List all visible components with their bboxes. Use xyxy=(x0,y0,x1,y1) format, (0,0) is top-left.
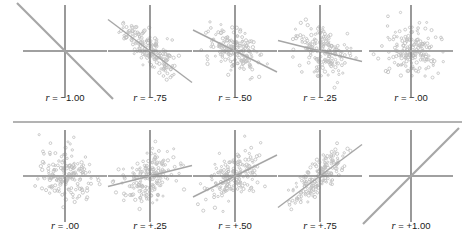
scatter-panel-8 xyxy=(278,130,362,222)
scatter-points xyxy=(34,134,101,209)
figure-canvas: r = −1.00r = −.75r = −.50r = −.25r = −.0… xyxy=(0,0,475,245)
panel-label: r = −.25 xyxy=(303,92,337,103)
label-equals: = xyxy=(55,220,66,231)
panel-label: r = −.75 xyxy=(133,92,167,103)
panel-label: r = +.50 xyxy=(218,220,252,231)
panel-label: r = .00 xyxy=(51,220,79,231)
r-value: +.50 xyxy=(233,220,252,231)
label-equals: = xyxy=(222,220,233,231)
label-equals: = xyxy=(307,220,318,231)
scatter-panel-5 xyxy=(23,130,107,222)
scatter-panel-6 xyxy=(108,130,192,222)
panel-label: r = −.00 xyxy=(394,92,428,103)
label-equals: = xyxy=(222,92,233,103)
panel-label: r = −1.00 xyxy=(46,92,85,103)
scatter-panel-7 xyxy=(193,130,277,222)
scatter-panel-0 xyxy=(17,3,113,99)
r-value: −1.00 xyxy=(60,92,84,103)
panel-label: r = +.25 xyxy=(133,220,167,231)
scatter-points xyxy=(291,18,357,89)
r-value: −.75 xyxy=(148,92,167,103)
r-value: −.50 xyxy=(233,92,252,103)
scatter-panel-4 xyxy=(369,5,453,97)
scatter-points xyxy=(372,11,444,79)
label-equals: = xyxy=(307,92,318,103)
label-equals: = xyxy=(50,92,61,103)
r-value: +1.00 xyxy=(406,220,430,231)
label-equals: = xyxy=(137,220,148,231)
label-equals: = xyxy=(396,220,407,231)
scatter-panel-2 xyxy=(193,5,277,97)
scatter-panel-9 xyxy=(363,128,459,224)
r-value: −.25 xyxy=(318,92,337,103)
r-value: +.75 xyxy=(318,220,337,231)
scatter-panel-3 xyxy=(278,5,362,97)
r-value: +.25 xyxy=(148,220,167,231)
label-equals: = xyxy=(398,92,409,103)
panel-label: r = +.75 xyxy=(303,220,337,231)
r-value: .00 xyxy=(66,220,79,231)
panel-label: r = +1.00 xyxy=(392,220,431,231)
r-value: −.00 xyxy=(409,92,428,103)
label-equals: = xyxy=(137,92,148,103)
correlation-scatterplot-figure: r = −1.00r = −.75r = −.50r = −.25r = −.0… xyxy=(0,0,475,245)
scatter-panel-1 xyxy=(108,5,192,97)
scatter-points xyxy=(196,135,266,212)
panel-label: r = −.50 xyxy=(218,92,252,103)
